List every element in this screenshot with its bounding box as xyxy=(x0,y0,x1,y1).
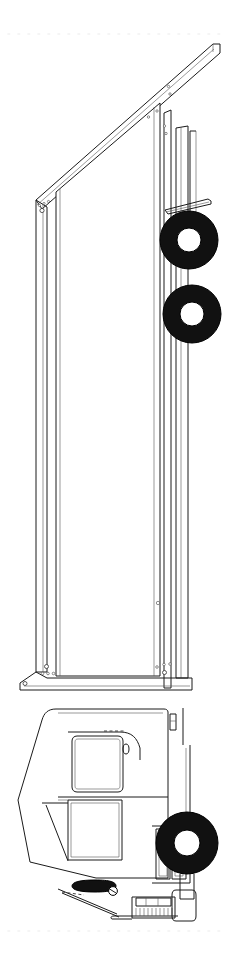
exhaust-stack xyxy=(170,708,183,745)
bolt-fw-1 xyxy=(38,204,40,206)
trailer-assembly xyxy=(20,44,221,690)
side-panel-outline xyxy=(56,103,160,676)
bolt-lb-8 xyxy=(163,671,167,675)
bolt-up-6 xyxy=(156,110,158,112)
trailer-wheel-rear xyxy=(160,211,218,269)
cab-body-outline xyxy=(18,709,168,878)
front-wall-outline xyxy=(36,200,47,672)
bolt-up-2 xyxy=(165,132,167,134)
bumper-top-bar xyxy=(136,898,171,906)
air-dam-upper xyxy=(58,889,117,914)
drawing-canvas xyxy=(0,0,232,966)
trailer-rear-posts xyxy=(156,110,196,688)
bolt-up-5 xyxy=(147,116,149,118)
tractor-hub-front xyxy=(174,830,200,856)
bolt-lb-3 xyxy=(47,672,50,675)
fuel-tank xyxy=(72,880,117,895)
tractor-front-wheel xyxy=(156,812,218,874)
bolt-lb-7 xyxy=(169,663,172,666)
trailer-hub-front xyxy=(180,302,204,326)
tractor-assembly xyxy=(18,708,218,921)
bolt-lb-4 xyxy=(52,672,55,675)
front-axle-stub xyxy=(180,874,194,899)
bumper-outline xyxy=(132,897,175,918)
bolt-up-3 xyxy=(167,85,169,87)
truck-line-drawing xyxy=(0,0,232,966)
bolt-sill-nose xyxy=(23,682,27,686)
air-dam-lower xyxy=(62,893,119,917)
bolt-fw-2 xyxy=(43,202,45,204)
trailer-side-panel xyxy=(56,103,160,676)
cab-body xyxy=(18,709,168,878)
bolt-rear-post-mid xyxy=(156,601,159,604)
trailer-hub-rear xyxy=(177,228,201,252)
bolt-up-1 xyxy=(163,125,165,127)
bolt-up-4 xyxy=(169,93,171,95)
axle-stub-outline xyxy=(180,874,194,899)
front-bumper xyxy=(111,897,178,919)
trailer-front-wall xyxy=(36,200,50,672)
bolt-lb-1 xyxy=(45,665,49,669)
bolt-lb-2 xyxy=(41,672,44,675)
bolt-lb-6 xyxy=(163,663,166,666)
exhaust-stack-body xyxy=(170,714,176,730)
rear-post-b xyxy=(176,126,188,678)
trailer-wheel-front xyxy=(163,285,221,343)
rear-post-a xyxy=(164,110,171,688)
bolt-fw-3 xyxy=(47,200,49,202)
bumper-slats xyxy=(136,908,172,916)
bolt-fw-large xyxy=(40,208,44,212)
bolt-lb-5 xyxy=(156,666,159,669)
